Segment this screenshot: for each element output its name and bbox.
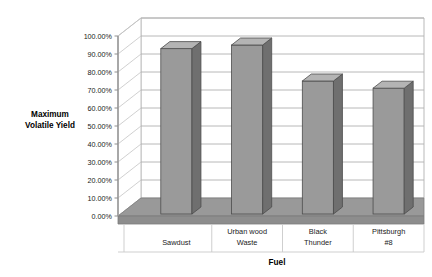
y-axis-title-line1: Maximum [31,110,69,119]
y-tick-label: 90.00% [88,50,113,59]
bar-column [161,42,201,214]
bar-chart: 0.00%10.00%20.00%30.00%40.00%50.00%60.00… [0,0,432,277]
bar-column [373,81,413,214]
y-tick-label: 20.00% [88,176,113,185]
bar-column [302,74,342,214]
y-tick-label: 50.00% [88,122,113,131]
bar-column [232,38,272,214]
y-axis-title-line2: Volatile Yield [25,121,75,130]
y-tick-label: 70.00% [88,86,113,95]
category-label: Black [309,227,327,236]
y-tick-label: 30.00% [88,158,113,167]
category-label: Thunder [304,238,332,247]
y-tick-label: 100.00% [84,32,113,41]
y-tick-label: 0.00% [92,212,113,221]
y-tick-label: 40.00% [88,140,113,149]
category-label: Urban wood [227,227,267,236]
chart-container: 0.00%10.00%20.00%30.00%40.00%50.00%60.00… [0,0,432,277]
category-label: Sawdust [162,238,190,247]
category-label: Waste [237,238,258,247]
y-tick-label: 60.00% [88,104,113,113]
y-tick-label: 80.00% [88,68,113,77]
x-axis-title: Fuel [269,258,286,267]
category-label: #8 [385,238,393,247]
y-tick-label: 10.00% [88,194,113,203]
category-label: Pittsburgh [372,227,405,236]
